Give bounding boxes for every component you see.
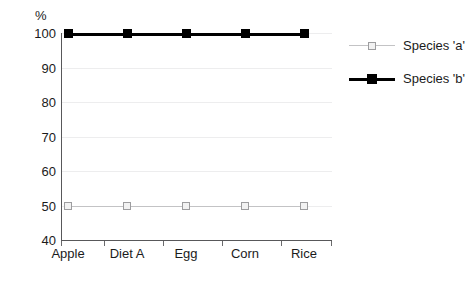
x-axis-tick <box>331 241 332 246</box>
legend-swatch-b <box>349 71 395 87</box>
legend-label: Species 'a' <box>403 38 465 54</box>
data-point-marker <box>241 202 249 210</box>
x-axis-category-label: Corn <box>215 247 275 261</box>
y-axis-tick-label: 50 <box>14 200 56 213</box>
legend-item-species-b[interactable]: Species 'b' <box>349 71 469 104</box>
legend-marker-icon <box>367 74 377 84</box>
y-axis-unit-label: % <box>35 8 47 23</box>
data-point-marker <box>300 29 309 38</box>
y-axis-tick-label: 70 <box>14 131 56 144</box>
data-point-marker <box>64 202 72 210</box>
chart-figure: % 405060708090100 AppleDiet AEggCornRice… <box>0 0 472 283</box>
x-axis-category-label: Rice <box>274 247 334 261</box>
data-point-marker <box>182 202 190 210</box>
y-axis-tick-label: 100 <box>14 27 56 40</box>
legend-swatch-a <box>349 38 395 54</box>
x-axis-category-label: Diet A <box>97 247 157 261</box>
data-point-marker <box>300 202 308 210</box>
x-axis-category-label: Apple <box>38 247 98 261</box>
y-axis-tick-label: 40 <box>14 234 56 247</box>
plot-area <box>61 33 332 240</box>
data-point-marker <box>182 29 191 38</box>
legend-label: Species 'b' <box>403 71 465 87</box>
x-axis-tick <box>163 241 164 246</box>
data-point-marker <box>123 202 131 210</box>
x-axis-category-label: Egg <box>156 247 216 261</box>
x-axis-tick <box>222 241 223 246</box>
y-axis-tick-label: 90 <box>14 62 56 75</box>
gridline <box>62 137 332 138</box>
chart-legend: Species 'a'Species 'b' <box>349 38 469 104</box>
x-axis-tick <box>104 241 105 246</box>
y-axis-tick-label: 80 <box>14 96 56 109</box>
data-point-marker <box>123 29 132 38</box>
legend-marker-icon <box>368 42 376 50</box>
x-axis-tick <box>281 241 282 246</box>
legend-item-species-a[interactable]: Species 'a' <box>349 38 469 71</box>
y-axis-tick-label: 60 <box>14 165 56 178</box>
gridline <box>62 102 332 103</box>
x-axis-line <box>61 240 332 241</box>
gridline <box>62 68 332 69</box>
data-point-marker <box>241 29 250 38</box>
data-point-marker <box>64 29 73 38</box>
gridline <box>62 171 332 172</box>
y-axis-tick-labels: 405060708090100 <box>8 33 56 240</box>
